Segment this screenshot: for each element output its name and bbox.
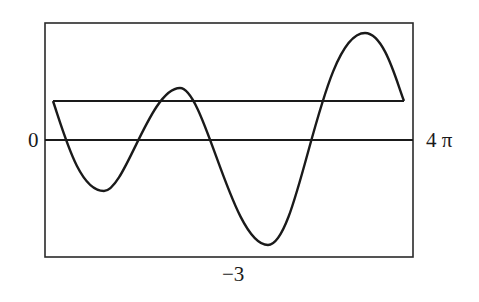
parametric-plot	[0, 0, 479, 302]
axis-label-bottom: −3	[222, 264, 244, 285]
axis-label-left: 0	[28, 130, 39, 151]
axis-label-right: 4 π	[426, 130, 452, 151]
